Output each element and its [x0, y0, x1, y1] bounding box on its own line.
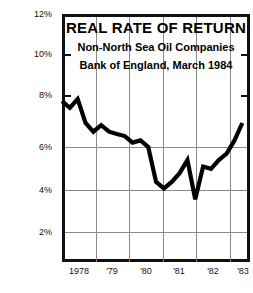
x-axis-label-83: '83 [223, 266, 253, 276]
data-line-series [62, 99, 242, 199]
chart-container: REAL RATE OF RETURN Non-North Sea Oil Co… [0, 0, 253, 293]
x-axis-labels: 1978 '79 '80 '81 '82 '83 [0, 266, 253, 286]
data-plot [0, 0, 253, 293]
